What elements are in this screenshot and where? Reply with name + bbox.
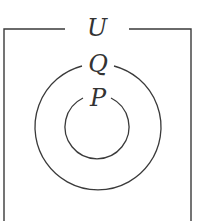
set-p-label: P — [89, 84, 107, 112]
venn-diagram: U Q P — [0, 0, 201, 221]
universe-label: U — [87, 14, 108, 42]
set-q-label: Q — [88, 50, 108, 78]
